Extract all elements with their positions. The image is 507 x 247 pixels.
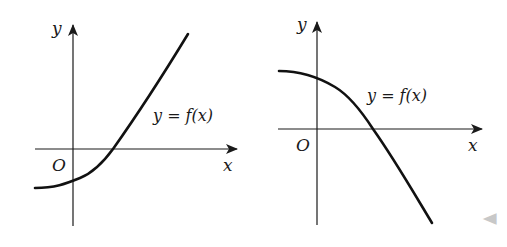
graphs-svg [0,0,507,247]
right-x-axis-label: x [468,137,478,154]
left-graph [35,25,237,226]
right-graph [278,22,482,225]
right-y-axis-label: y [297,16,307,33]
right-origin-label: O [296,137,310,154]
left-x-axis-label: x [223,157,233,174]
left-origin-label: O [52,157,66,174]
left-y-axis-label: y [52,20,62,37]
left-curve-label: y = f(x) [153,108,213,124]
right-curve-label: y = f(x) [367,88,427,104]
prev-arrow-icon[interactable]: ◀ [483,209,497,227]
diagram-canvas: y O x y = f(x) y O x y = f(x) ◀ [0,0,507,247]
